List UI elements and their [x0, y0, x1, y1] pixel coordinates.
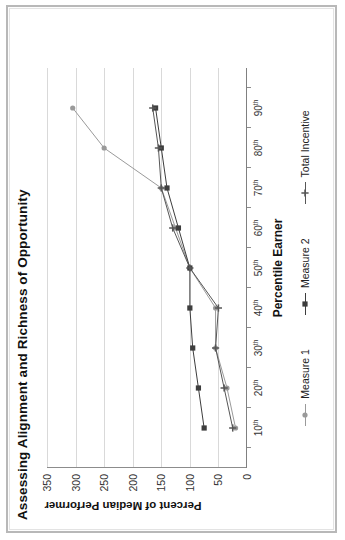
- x-axis-tick: [247, 127, 251, 128]
- series-line: [72, 108, 235, 428]
- x-axis-tick-label: 10th: [252, 420, 264, 437]
- x-axis-tick-label: 40th: [252, 300, 264, 317]
- data-point-marker: [70, 105, 75, 110]
- data-point-marker: [211, 344, 218, 351]
- x-axis-tick: [247, 207, 251, 208]
- y-axis-tick-label: 200: [126, 474, 138, 492]
- x-axis-tick: [247, 247, 251, 248]
- x-axis-tick-label: 70th: [252, 180, 264, 197]
- y-axis-tick-label: 100: [183, 474, 195, 492]
- y-axis-tick-label: 150: [155, 474, 167, 492]
- x-axis-tick: [247, 167, 251, 168]
- chart-legend: Measure 1Measure 2Total Incentive: [299, 68, 311, 468]
- data-series: [152, 105, 206, 430]
- y-axis-title: Percent of Median Performer: [23, 500, 223, 512]
- data-point-marker: [187, 305, 192, 310]
- x-axis-tick-label: 30th: [252, 340, 264, 357]
- x-axis-tick: [247, 407, 251, 408]
- y-axis-tick-label: 350: [41, 474, 53, 492]
- x-axis-tick: [247, 287, 251, 288]
- plot-area: 050100150200250300350 10th20th30th40th50…: [47, 68, 247, 468]
- x-axis-tick-label: 50th: [252, 260, 264, 277]
- x-axis-tick: [247, 367, 251, 368]
- chart-title: Assessing Alignment and Richness of Oppo…: [15, 190, 30, 521]
- data-series-layer: [47, 68, 247, 468]
- data-point-marker: [195, 385, 200, 390]
- y-axis-tick-label: 50: [212, 474, 224, 486]
- x-axis-tick: [247, 447, 251, 448]
- page-root: Assessing Alignment and Richness of Oppo…: [0, 0, 345, 540]
- x-axis-tick-label: 90th: [252, 100, 264, 117]
- x-axis-tick: [247, 327, 251, 328]
- x-axis-tick-label: 20th: [252, 380, 264, 397]
- series-line: [155, 108, 204, 428]
- legend-marker-cross-icon: [300, 182, 310, 204]
- y-axis-tick-label: 0: [241, 474, 253, 480]
- legend-item[interactable]: Total Incentive: [299, 110, 311, 204]
- legend-marker-square-icon: [300, 293, 310, 315]
- data-point-marker: [201, 425, 206, 430]
- data-series: [70, 105, 238, 430]
- y-axis-tick-label: 250: [98, 474, 110, 492]
- legend-marker-circle-icon: [300, 404, 310, 426]
- legend-label: Total Incentive: [299, 110, 311, 177]
- legend-item[interactable]: Measure 1: [299, 349, 311, 426]
- data-point-marker: [101, 145, 106, 150]
- legend-item[interactable]: Measure 2: [299, 238, 311, 315]
- y-axis-tick-label: 300: [69, 474, 81, 492]
- x-axis-title: Percentile Earner: [271, 68, 285, 468]
- x-axis-tick-label: 80th: [252, 140, 264, 157]
- legend-label: Measure 1: [299, 349, 311, 399]
- x-axis-tick: [247, 87, 251, 88]
- rotated-chart-stage: Assessing Alignment and Richness of Oppo…: [13, 10, 333, 530]
- x-axis-tick-label: 60th: [252, 220, 264, 237]
- data-point-marker: [190, 345, 195, 350]
- legend-label: Measure 2: [299, 238, 311, 288]
